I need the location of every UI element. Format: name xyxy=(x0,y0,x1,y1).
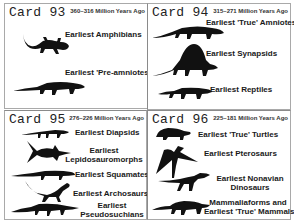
dimetrodon-silhouette-icon xyxy=(152,42,218,78)
card-title: Card 95 xyxy=(9,112,66,127)
card-date-range: 225–181 Million Years Ago xyxy=(213,115,288,121)
item-label: Earliest Pseudosuchians xyxy=(77,201,147,219)
item-label: Earliest Pterosaurs xyxy=(204,149,277,158)
item-label: Earliest Diapsids xyxy=(75,128,139,137)
card-96: Card 96 225–181 Million Years Ago Earlie… xyxy=(147,110,291,220)
item-label: Earliest Archosaurs xyxy=(73,189,148,198)
reptile-silhouette-icon xyxy=(158,86,212,100)
item-label: Mammaliaforms and Earliest 'True' Mammal… xyxy=(204,198,292,216)
item-label: Earliest Amphibians xyxy=(65,30,142,39)
squamate-silhouette-icon xyxy=(11,169,75,181)
card-title: Card 93 xyxy=(9,5,66,20)
card-date-range: 276–226 Million Years Ago xyxy=(69,115,144,121)
mammal-silhouette-icon xyxy=(152,198,210,216)
card-93: Card 93 360–316 Million Years Ago Earlie… xyxy=(4,3,147,109)
item-label: Earliest 'True' Amniotes xyxy=(206,18,294,27)
item-label: Earliest 'True' Turtles xyxy=(198,130,278,139)
item-label: Earliest Lepidosauromorphs xyxy=(61,146,147,164)
archosaur-silhouette-icon xyxy=(25,181,71,203)
turtle-silhouette-icon xyxy=(156,127,192,141)
item-label: Earliest 'Pre-amniotes' xyxy=(65,68,151,77)
dinosaur-silhouette-icon xyxy=(158,171,210,193)
item-label: Earliest Synapsids xyxy=(206,49,277,58)
item-label: Earliest Squamates xyxy=(75,170,149,179)
lizard-silhouette-icon xyxy=(13,79,85,97)
card-title: Card 94 xyxy=(152,5,209,20)
crocodile-silhouette-icon xyxy=(11,203,79,217)
card-title: Card 96 xyxy=(152,112,209,127)
card-94: Card 94 315–271 Million Years Ago Earlie… xyxy=(147,3,291,110)
item-label: Earliest Nonavian Dinosaurs xyxy=(210,174,290,192)
salamander-silhouette-icon xyxy=(21,32,71,56)
diapsid-silhouette-icon xyxy=(21,129,69,139)
card-95: Card 95 276–226 Million Years Ago Earlie… xyxy=(4,110,147,220)
card-date-range: 315–271 Million Years Ago xyxy=(213,8,288,14)
card-date-range: 360–316 Million Years Ago xyxy=(70,8,145,14)
item-label: Earliest Reptiles xyxy=(210,85,272,94)
